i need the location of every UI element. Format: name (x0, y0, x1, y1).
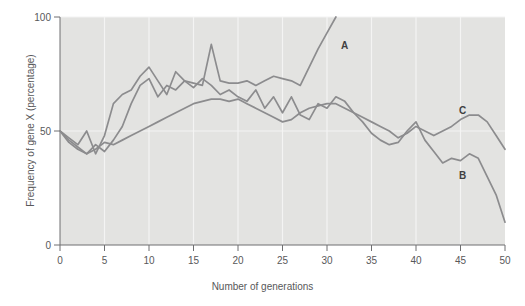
series-line-A (60, 17, 336, 154)
x-tick-label: 30 (321, 255, 332, 266)
x-tick-label: 35 (366, 255, 377, 266)
x-tick-label: 25 (277, 255, 288, 266)
x-tick-label: 5 (102, 255, 108, 266)
y-axis-title: Frequency of gene X (percentage) (25, 31, 36, 231)
x-tick-label: 10 (143, 255, 154, 266)
gridlines (60, 17, 505, 245)
x-tick-label: 40 (410, 255, 421, 266)
x-axis-title: Number of generations (0, 281, 525, 292)
series-label-A: A (341, 40, 348, 51)
x-tick-label: 20 (232, 255, 243, 266)
y-tick-label: 100 (20, 12, 51, 23)
series-label-C: C (459, 105, 466, 116)
chart-canvas (0, 0, 525, 306)
chart-figure: 05101520253035404550 050100 Number of ge… (0, 0, 525, 306)
x-tick-label: 45 (455, 255, 466, 266)
y-tick-label: 0 (20, 240, 51, 251)
x-tick-label: 15 (188, 255, 199, 266)
x-tick-label: 0 (57, 255, 63, 266)
x-tick-label: 50 (499, 255, 510, 266)
series-label-B: B (459, 170, 466, 181)
